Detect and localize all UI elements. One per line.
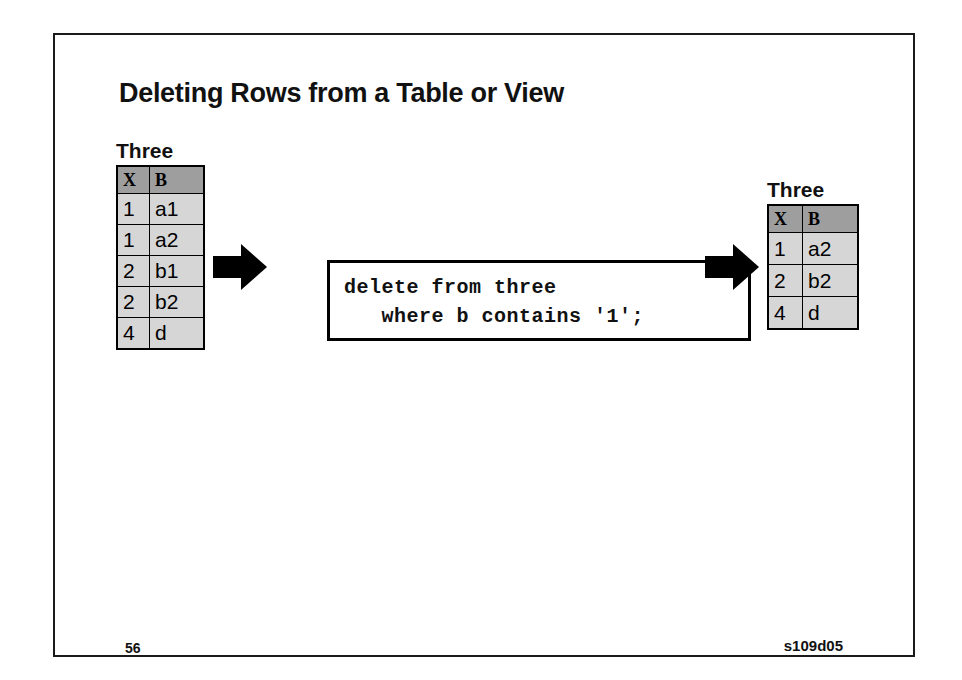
table-row: 2 b1 [117,256,204,287]
after-table: X B 1 a2 2 b2 4 d [767,204,859,330]
column-header-x: X [117,166,150,194]
table-row: 1 a2 [768,233,858,265]
cell-x: 2 [117,287,150,318]
cell-x: 1 [117,225,150,256]
cell-b: b2 [150,287,205,318]
page-title: Deleting Rows from a Table or View [119,78,564,109]
right-arrow-icon [213,244,269,290]
table-row: 1 a1 [117,194,204,225]
cell-b: b1 [150,256,205,287]
cell-x: 4 [117,318,150,350]
cell-b: a2 [150,225,205,256]
arrow-shaft [705,256,735,278]
cell-b: d [803,297,859,330]
before-table-caption: Three [116,140,205,161]
after-table-block: Three X B 1 a2 2 b2 4 d [767,179,859,330]
column-header-x: X [768,205,803,233]
cell-x: 2 [768,265,803,297]
before-table-block: Three X B 1 a1 1 a2 2 b1 2 b2 [116,140,205,350]
table-header-row: X B [117,166,204,194]
table-row: 4 d [768,297,858,330]
cell-b: a2 [803,233,859,265]
cell-x: 1 [117,194,150,225]
cell-x: 2 [117,256,150,287]
before-table: X B 1 a1 1 a2 2 b1 2 b2 4 d [116,165,205,350]
cell-x: 4 [768,297,803,330]
table-header-row: X B [768,205,858,233]
sql-code-text: delete from three where b contains '1'; [330,263,748,331]
slide-frame: Deleting Rows from a Table or View Three… [53,33,915,657]
cell-b: a1 [150,194,205,225]
cell-b: b2 [803,265,859,297]
arrow-head [733,244,759,290]
sql-statement-box: delete from three where b contains '1'; [327,260,751,341]
slide-code: s109d05 [784,637,843,654]
table-row: 2 b2 [117,287,204,318]
right-arrow-icon [705,244,761,290]
table-row: 1 a2 [117,225,204,256]
after-table-caption: Three [767,179,859,200]
cell-x: 1 [768,233,803,265]
column-header-b: B [150,166,205,194]
arrow-head [241,244,267,290]
arrow-shaft [213,256,243,278]
page-number: 56 [125,640,141,656]
column-header-b: B [803,205,859,233]
table-row: 2 b2 [768,265,858,297]
table-row: 4 d [117,318,204,350]
cell-b: d [150,318,205,350]
